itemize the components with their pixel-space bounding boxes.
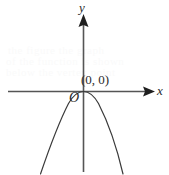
parabola-curve — [41, 92, 124, 175]
y-axis-label: y — [79, 1, 85, 14]
coordinate-plot — [0, 0, 169, 175]
origin-letter-label: O — [69, 91, 79, 105]
x-axis-label: x — [157, 84, 163, 97]
origin-coordinate-label: (0, 0) — [81, 73, 109, 86]
parabola-figure: the figure the graph of the function is … — [0, 0, 169, 175]
